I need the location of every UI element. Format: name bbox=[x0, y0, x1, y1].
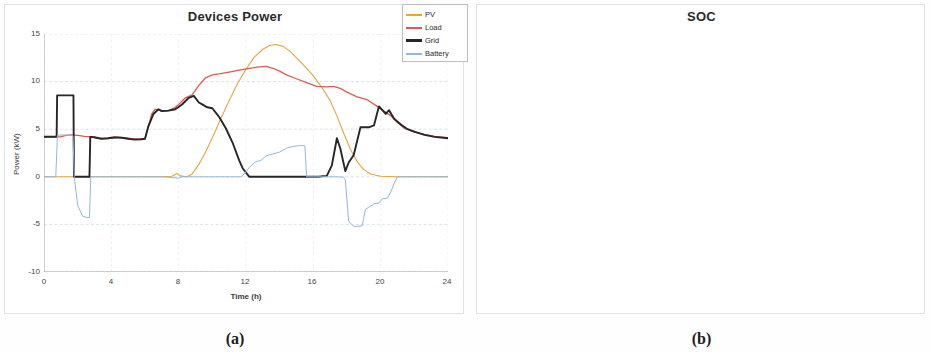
panel-b-frame bbox=[476, 4, 925, 314]
y-tick-a-2: 5 bbox=[8, 124, 40, 133]
panel-b: SOC SOC (%) 100% 80% 60% 40% 20% 0% 0 4 … bbox=[470, 0, 933, 352]
plot-area-devices-power bbox=[44, 34, 448, 272]
y-tick-a-4: -5 bbox=[8, 219, 40, 228]
y-tick-a-3: 0 bbox=[8, 172, 40, 181]
legend-item-pv[interactable]: PV bbox=[406, 8, 465, 21]
x-tick-a-2: 8 bbox=[162, 277, 194, 286]
x-tick-a-5: 20 bbox=[364, 277, 396, 286]
panel-a: Devices Power Power (kW) 15 10 5 0 -5 -1… bbox=[0, 0, 470, 352]
x-tick-a-6: 24 bbox=[431, 277, 463, 286]
legend-item-grid[interactable]: Grid bbox=[406, 34, 465, 47]
y-tick-a-0: 15 bbox=[8, 29, 40, 38]
legend-key-load-icon bbox=[406, 27, 422, 29]
panel-a-caption: (a) bbox=[0, 330, 470, 348]
y-tick-a-5: -10 bbox=[6, 267, 40, 276]
y-axis-title-power: Power (kW) bbox=[12, 133, 21, 175]
legend-devices-power: PV Load Grid Battery bbox=[402, 4, 468, 62]
legend-item-battery[interactable]: Battery bbox=[406, 47, 465, 60]
x-tick-a-3: 12 bbox=[229, 277, 261, 286]
legend-key-battery-icon bbox=[406, 53, 422, 55]
panel-b-caption: (b) bbox=[470, 330, 933, 348]
legend-key-grid-icon bbox=[406, 39, 422, 42]
legend-label-load: Load bbox=[425, 23, 442, 32]
legend-label-grid: Grid bbox=[425, 36, 439, 45]
chart-title-devices-power: Devices Power bbox=[0, 9, 470, 24]
chart-title-soc: SOC bbox=[470, 9, 933, 24]
legend-label-pv: PV bbox=[425, 10, 435, 19]
x-tick-a-1: 4 bbox=[95, 277, 127, 286]
x-tick-a-4: 16 bbox=[296, 277, 328, 286]
figure-container: Devices Power Power (kW) 15 10 5 0 -5 -1… bbox=[0, 0, 933, 352]
x-axis-title-a: Time (h) bbox=[44, 292, 448, 301]
legend-item-load[interactable]: Load bbox=[406, 21, 465, 34]
legend-key-pv-icon bbox=[406, 14, 422, 16]
legend-label-battery: Battery bbox=[425, 49, 449, 58]
x-tick-a-0: 0 bbox=[28, 277, 60, 286]
y-tick-a-1: 10 bbox=[8, 76, 40, 85]
